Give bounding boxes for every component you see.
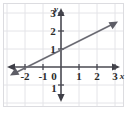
graph-canvas: -2 -1 0 1 2 3 3 2 1 1 y x [0,0,127,113]
x-tick-label-neg1: -1 [38,70,47,82]
x-tick-label-neg2: -2 [20,70,30,82]
x-tick-label-2: 2 [94,70,100,82]
y-tick-label-1: 1 [50,43,56,55]
x-axis-label: x [119,71,125,81]
x-tick-label-3: 3 [112,70,118,82]
y-tick-label-neg1: 1 [51,82,57,94]
origin-label: 0 [51,70,57,82]
coordinate-plane-figure: -2 -1 0 1 2 3 3 2 1 1 y x [0,0,127,113]
y-tick-label-2: 2 [50,25,56,37]
x-tick-label-1: 1 [76,70,82,82]
